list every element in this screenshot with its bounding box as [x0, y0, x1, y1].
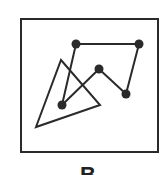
vertex-dot	[72, 40, 81, 49]
triangle-shape	[36, 60, 100, 127]
vertex-dot	[135, 40, 144, 49]
figure-label: B	[0, 164, 162, 175]
vertex-dot	[95, 65, 104, 74]
vertex-dot	[122, 90, 131, 99]
figure-frame	[21, 19, 158, 152]
vertex-dot	[58, 101, 67, 110]
figure-diagram	[0, 0, 162, 175]
